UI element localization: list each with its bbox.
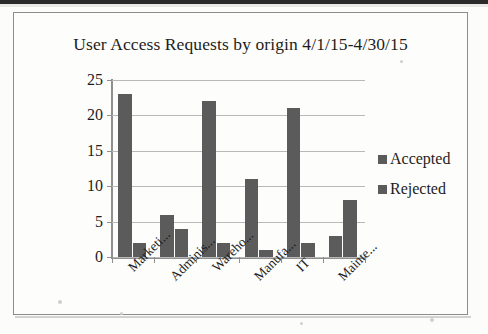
y-axis-tick-label: 0 xyxy=(95,248,103,266)
y-axis-tick-label: 15 xyxy=(87,141,103,159)
x-tick-mark xyxy=(154,257,155,263)
gridline xyxy=(112,222,365,223)
y-tick-mark xyxy=(107,222,112,223)
legend-swatch-icon xyxy=(378,185,387,194)
gridline xyxy=(112,186,365,187)
bar-rejected xyxy=(301,243,315,257)
y-tick-mark xyxy=(107,186,112,187)
legend-label: Accepted xyxy=(390,150,450,168)
y-tick-mark xyxy=(107,80,112,81)
bar-rejected xyxy=(343,200,357,257)
bar-accepted xyxy=(329,236,343,257)
bar-chart: User Access Requests by origin 4/1/15-4/… xyxy=(13,12,468,315)
frame-drop-shadow xyxy=(15,316,471,318)
plot-area: 0510152025 xyxy=(112,80,365,257)
y-axis-tick-label: 10 xyxy=(87,177,103,195)
bar-accepted xyxy=(118,94,132,257)
legend-item-rejected: Rejected xyxy=(378,180,466,198)
scan-artifact xyxy=(58,300,62,304)
x-tick-mark xyxy=(365,257,366,263)
x-tick-mark xyxy=(239,257,240,263)
y-tick-mark xyxy=(107,151,112,152)
scan-artifact xyxy=(400,60,403,63)
scan-artifact xyxy=(120,312,123,315)
y-axis-tick-label: 25 xyxy=(87,71,103,89)
legend-item-accepted: Accepted xyxy=(378,150,466,168)
gridline xyxy=(112,151,365,152)
scanned-page: User Access Requests by origin 4/1/15-4/… xyxy=(0,0,488,334)
scan-top-edge-highlight xyxy=(0,4,488,7)
x-tick-mark xyxy=(323,257,324,263)
y-tick-mark xyxy=(107,115,112,116)
scan-artifact xyxy=(430,318,434,322)
chart-title: User Access Requests by origin 4/1/15-4/… xyxy=(13,34,468,55)
legend-label: Rejected xyxy=(390,180,446,198)
x-tick-mark xyxy=(281,257,282,263)
chart-legend: Accepted Rejected xyxy=(378,150,466,210)
gridline xyxy=(112,115,365,116)
legend-swatch-icon xyxy=(378,155,387,164)
y-axis-tick-label: 5 xyxy=(95,212,103,230)
x-tick-mark xyxy=(196,257,197,263)
x-tick-mark xyxy=(112,257,113,263)
bar-accepted xyxy=(287,108,301,257)
gridline xyxy=(112,80,365,81)
scan-artifact xyxy=(300,322,303,325)
y-axis-tick-label: 20 xyxy=(87,106,103,124)
